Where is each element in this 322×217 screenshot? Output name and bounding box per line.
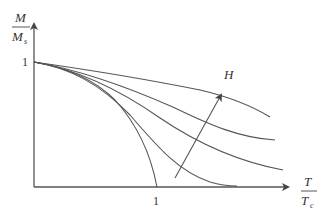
y-label-subscript: s [24,37,27,46]
y-label-numerator: M [14,10,27,25]
curve-h3 [34,62,275,140]
curve-h2 [34,62,283,170]
curve-h1 [34,62,237,186]
x-axis-label: T T c [301,174,317,210]
field-increase-arrow [175,95,221,178]
y-label-denominator: M [11,29,24,44]
h-label: H [223,67,234,82]
x-label-numerator: T [304,174,312,189]
x-tick-1: 1 [153,194,159,208]
magnetization-vs-temperature-diagram: M M s T T c 1 1 H [0,0,322,217]
x-label-subscript: c [310,201,314,210]
y-tick-1: 1 [22,55,28,69]
x-label-denominator: T [301,193,309,208]
y-axis-label: M M s [11,10,30,46]
